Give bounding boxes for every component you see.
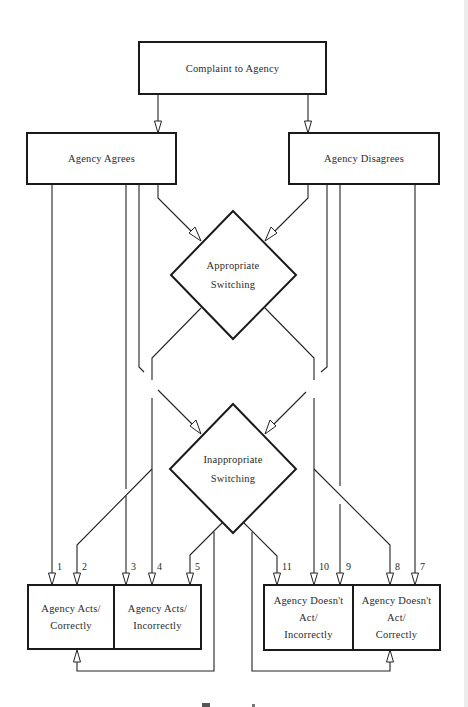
acts-correctly-line1: Agency Acts/ xyxy=(41,600,100,617)
agrees-text: Agency Agrees xyxy=(68,150,135,167)
edge-agrees-to-inappropriate xyxy=(139,184,201,434)
edge-complaint-to-disagrees xyxy=(305,94,312,133)
edge-path-7 xyxy=(412,184,419,585)
inappropriate-line2: Switching xyxy=(211,469,255,488)
path-number-7: 7 xyxy=(420,561,425,572)
figure-caption-cutoff xyxy=(200,700,262,707)
doesnt-act-correctly-label: Agency Doesn't Act/ Correctly xyxy=(353,585,440,650)
path-number-9: 9 xyxy=(346,561,351,572)
acts-incorrectly-line2: Incorrectly xyxy=(133,617,181,634)
path-number-5: 5 xyxy=(195,561,200,572)
path-number-10: 10 xyxy=(319,561,329,572)
page-edge xyxy=(464,0,468,707)
path-number-3: 3 xyxy=(131,561,136,572)
doesnt-act-correctly-line3: Correctly xyxy=(376,626,417,643)
edge-agrees-to-appropriate xyxy=(158,184,201,241)
appropriate-label: Appropriate Switching xyxy=(183,250,283,300)
complaint-text: Complaint to Agency xyxy=(186,60,280,77)
edge-path-9 xyxy=(337,184,344,585)
edge-disagrees-to-inappropriate xyxy=(265,184,327,434)
disagrees-text: Agency Disagrees xyxy=(324,150,404,167)
doesnt-act-incorrectly-label: Agency Doesn't Act/ Incorrectly xyxy=(264,585,353,650)
acts-correctly-line2: Correctly xyxy=(50,617,91,634)
edge-path-1 xyxy=(49,184,56,585)
path-number-2: 2 xyxy=(82,561,87,572)
acts-correctly-label: Agency Acts/ Correctly xyxy=(28,585,114,649)
doesnt-act-incorrectly-line3: Incorrectly xyxy=(284,626,332,643)
acts-incorrectly-label: Agency Acts/ Incorrectly xyxy=(114,585,201,649)
appropriate-line2: Switching xyxy=(211,275,255,294)
doesnt-act-correctly-line1: Agency Doesn't xyxy=(362,592,432,609)
doesnt-act-correctly-line2: Act/ xyxy=(387,609,406,626)
path-number-4: 4 xyxy=(157,561,162,572)
doesnt-act-incorrectly-line2: Act/ xyxy=(299,609,318,626)
path-number-11: 11 xyxy=(282,561,292,572)
edge-path-5 xyxy=(187,522,224,585)
inappropriate-line1: Inappropriate xyxy=(203,450,262,469)
acts-incorrectly-line1: Agency Acts/ xyxy=(128,600,187,617)
path-number-8: 8 xyxy=(395,561,400,572)
disagrees-label: Agency Disagrees xyxy=(289,133,439,184)
inappropriate-label: Inappropriate Switching xyxy=(183,444,283,494)
edge-path-11 xyxy=(243,522,281,585)
edge-disagrees-to-appropriate xyxy=(265,184,308,241)
path-number-1: 1 xyxy=(57,561,62,572)
agrees-label: Agency Agrees xyxy=(27,133,176,184)
appropriate-line1: Appropriate xyxy=(207,256,260,275)
edge-path-3 xyxy=(123,184,130,585)
flowchart-diagram: Complaint to Agency Agency Agrees Agency… xyxy=(0,0,468,707)
doesnt-act-incorrectly-line1: Agency Doesn't xyxy=(274,592,344,609)
complaint-label: Complaint to Agency xyxy=(139,42,326,94)
edge-complaint-to-agrees xyxy=(155,94,162,133)
